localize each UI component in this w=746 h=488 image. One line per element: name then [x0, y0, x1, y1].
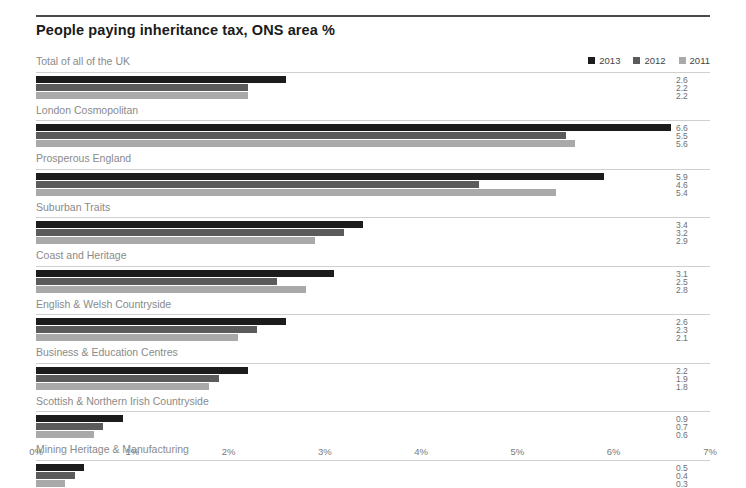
bar-2013[interactable]	[36, 173, 604, 180]
bar-set: 0.90.70.6	[36, 412, 710, 444]
x-axis-tick: 4%	[414, 446, 428, 457]
bar-set: 3.12.52.8	[36, 267, 710, 299]
bar-2013[interactable]	[36, 124, 671, 131]
bar-2012[interactable]	[36, 181, 479, 188]
bar-row	[36, 480, 710, 487]
x-axis-tick: 0%	[29, 446, 43, 457]
x-axis-tick: 3%	[318, 446, 332, 457]
bar-row	[36, 181, 710, 188]
x-axis-tick: 7%	[703, 446, 717, 457]
value-labels: 2.62.32.1	[676, 318, 710, 342]
value-label: 1.8	[676, 383, 710, 391]
header-rule	[36, 15, 710, 17]
bar-row	[36, 173, 710, 180]
bar-group: London Cosmopolitan6.65.55.6	[36, 105, 710, 154]
bar-2012[interactable]	[36, 423, 103, 430]
x-axis-tick: 1%	[125, 446, 139, 457]
bar-row	[36, 124, 710, 131]
bar-row	[36, 92, 710, 99]
category-label: English & Welsh Countryside	[36, 299, 710, 315]
bar-2013[interactable]	[36, 415, 123, 422]
x-axis-tick: 5%	[511, 446, 525, 457]
bar-group: Prosperous England5.94.65.4	[36, 153, 710, 202]
bar-set: 2.62.32.1	[36, 315, 710, 347]
x-axis-tick: 6%	[607, 446, 621, 457]
bar-2011[interactable]	[36, 237, 315, 244]
bar-group: Scottish & Northern Irish Countryside0.9…	[36, 396, 710, 445]
bar-set: 6.65.55.6	[36, 121, 710, 153]
x-axis: 0%1%2%3%4%5%6%7%	[36, 446, 710, 460]
bar-2011[interactable]	[36, 334, 238, 341]
category-label: Coast and Heritage	[36, 250, 710, 266]
bar-group: Suburban Traits3.43.22.9	[36, 202, 710, 251]
bar-row	[36, 221, 710, 228]
bar-2011[interactable]	[36, 383, 209, 390]
bar-2013[interactable]	[36, 270, 334, 277]
bar-group: Business & Education Centres2.21.91.8	[36, 347, 710, 396]
bar-2012[interactable]	[36, 326, 257, 333]
bar-2012[interactable]	[36, 229, 344, 236]
bar-set: 0.50.40.3	[36, 461, 710, 488]
bar-2012[interactable]	[36, 278, 277, 285]
bar-set: 5.94.65.4	[36, 170, 710, 202]
bar-set: 3.43.22.9	[36, 218, 710, 250]
bar-2013[interactable]	[36, 464, 84, 471]
bar-row	[36, 383, 710, 390]
bar-row	[36, 76, 710, 83]
bar-2011[interactable]	[36, 480, 65, 487]
value-label: 2.1	[676, 334, 710, 342]
value-labels: 3.43.22.9	[676, 221, 710, 245]
category-label: Prosperous England	[36, 153, 710, 169]
category-label: Scottish & Northern Irish Countryside	[36, 396, 710, 412]
bar-row	[36, 326, 710, 333]
bar-row	[36, 415, 710, 422]
bar-row	[36, 318, 710, 325]
value-labels: 6.65.55.6	[676, 124, 710, 148]
category-label: Total of all of the UK	[36, 56, 710, 72]
value-label: 0.3	[676, 480, 710, 488]
value-labels: 0.90.70.6	[676, 415, 710, 439]
bar-set: 2.21.91.8	[36, 364, 710, 396]
bar-2011[interactable]	[36, 286, 306, 293]
bar-2011[interactable]	[36, 189, 556, 196]
bar-row	[36, 189, 710, 196]
bar-group: Total of all of the UK2.62.22.2	[36, 56, 710, 105]
bar-2013[interactable]	[36, 367, 248, 374]
plot-area: Total of all of the UK2.62.22.2London Co…	[36, 56, 710, 436]
bar-row	[36, 132, 710, 139]
bar-2012[interactable]	[36, 132, 566, 139]
value-label: 5.6	[676, 140, 710, 148]
x-axis-tick: 2%	[222, 446, 236, 457]
bar-row	[36, 431, 710, 438]
bar-2012[interactable]	[36, 375, 219, 382]
bar-2013[interactable]	[36, 318, 286, 325]
bar-2011[interactable]	[36, 92, 248, 99]
bar-group: English & Welsh Countryside2.62.32.1	[36, 299, 710, 348]
bar-row	[36, 423, 710, 430]
bar-row	[36, 286, 710, 293]
bar-row	[36, 367, 710, 374]
value-label: 0.6	[676, 431, 710, 439]
bar-2013[interactable]	[36, 76, 286, 83]
bar-2012[interactable]	[36, 84, 248, 91]
bar-2011[interactable]	[36, 431, 94, 438]
category-label: Business & Education Centres	[36, 347, 710, 363]
bar-set: 2.62.22.2	[36, 73, 710, 105]
bar-row	[36, 375, 710, 382]
bar-row	[36, 140, 710, 147]
value-labels: 2.62.22.2	[676, 76, 710, 100]
bar-2011[interactable]	[36, 140, 575, 147]
bar-2012[interactable]	[36, 472, 75, 479]
value-labels: 2.21.91.8	[676, 367, 710, 391]
bar-row	[36, 237, 710, 244]
chart-container: People paying inheritance tax, ONS area …	[0, 0, 746, 488]
bar-row	[36, 472, 710, 479]
bar-row	[36, 464, 710, 471]
value-label: 2.2	[676, 92, 710, 100]
category-label: Suburban Traits	[36, 202, 710, 218]
bar-group: Coast and Heritage3.12.52.8	[36, 250, 710, 299]
value-labels: 5.94.65.4	[676, 173, 710, 197]
bar-row	[36, 270, 710, 277]
bar-2013[interactable]	[36, 221, 363, 228]
bar-row	[36, 84, 710, 91]
